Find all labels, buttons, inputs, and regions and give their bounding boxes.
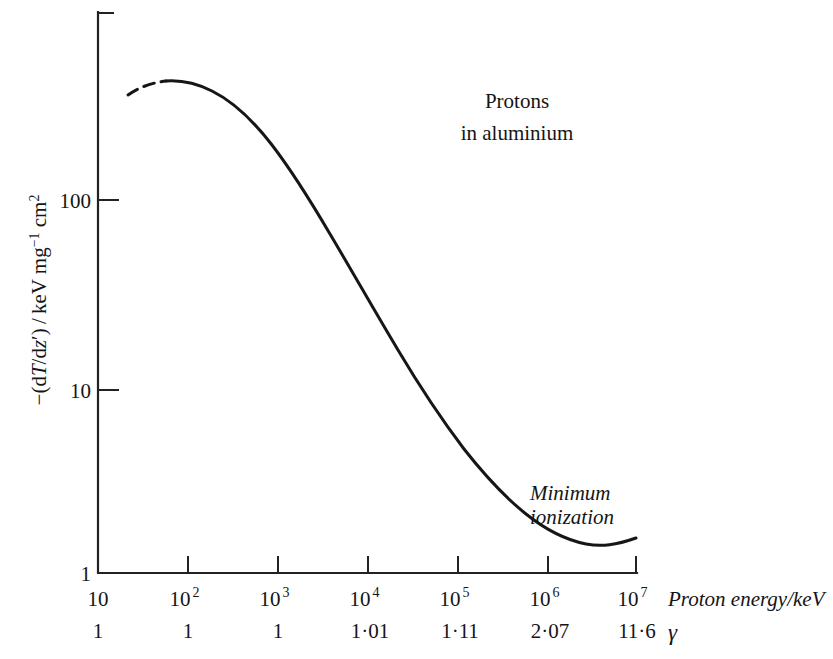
x-tick-label-1e3: 10 3	[260, 585, 290, 611]
x-tick-mantissa-1e1: 10	[88, 587, 109, 611]
x-tick-label-1e6: 10 6	[530, 585, 560, 611]
gamma-label-1e6: 2·07	[531, 619, 570, 643]
x-tick-label-1e7: 10 7	[618, 585, 648, 611]
x-tick-exponent-1e4: 4	[373, 585, 380, 600]
gamma-label-1e3: 1	[273, 619, 284, 643]
x-tick-exponent-1e3: 3	[283, 585, 290, 600]
gamma-label-1e4: 1·01	[351, 619, 390, 643]
y-axis-title: −(dT/dz′) / keV mg−1 cm2	[27, 195, 51, 406]
x-tick-exponent-1e5: 5	[463, 585, 470, 600]
y-axis-ticks	[98, 200, 119, 390]
x-axis-title: Proton energy/keV	[667, 587, 827, 611]
figure-proton-stopping-power: 100 10 1 10 10 2 10 3 10 4 10 5	[0, 0, 833, 659]
y-tick-label-10: 10	[70, 379, 91, 403]
x-axis-ticks	[98, 556, 636, 573]
annotation-min-ion-line2: ionization	[530, 505, 614, 529]
x-tick-exponent-1e2: 2	[193, 585, 200, 600]
y-tick-label-1: 1	[81, 562, 92, 586]
curve-main	[166, 81, 636, 546]
x-tick-label-1e5: 10 5	[440, 585, 470, 611]
y-axis-title-group: −(dT/dz′) / keV mg−1 cm2	[27, 195, 51, 406]
x-tick-mantissa-1e6: 10	[530, 587, 551, 611]
x-tick-labels: 10 10 2 10 3 10 4 10 5 10 6	[88, 585, 648, 611]
gamma-label-1e1: 1	[93, 619, 104, 643]
gamma-label-1e7: 11·6	[618, 619, 656, 643]
curve-dashed-extrapolation	[128, 81, 166, 95]
x-tick-exponent-1e7: 7	[641, 585, 648, 600]
x-tick-label-1e2: 10 2	[170, 585, 200, 611]
x-tick-labels-gamma: 1 1 1 1·01 1·11 2·07 11·6	[93, 619, 656, 643]
gamma-label-1e5: 1·11	[441, 619, 479, 643]
data-curve-group	[128, 81, 636, 546]
x-axis-title-gamma: γ	[668, 620, 678, 645]
x-tick-mantissa-1e4: 10	[350, 587, 371, 611]
x-tick-label-1e1: 10	[88, 587, 109, 611]
x-tick-exponent-1e6: 6	[553, 585, 560, 600]
chart-canvas: 100 10 1 10 10 2 10 3 10 4 10 5	[0, 0, 833, 659]
gamma-label-1e2: 1	[183, 619, 194, 643]
x-tick-mantissa-1e5: 10	[440, 587, 461, 611]
x-tick-mantissa-1e7: 10	[618, 587, 639, 611]
y-tick-label-100: 100	[60, 189, 92, 213]
annotation-sample-line1: Protons	[485, 89, 549, 113]
annotation-min-ion-line1: Minimum	[529, 481, 611, 505]
x-tick-label-1e4: 10 4	[350, 585, 380, 611]
annotation-sample: Protons in aluminium	[461, 89, 574, 145]
y-tick-labels: 100 10 1	[60, 189, 92, 586]
annotation-sample-line2: in aluminium	[461, 121, 574, 145]
x-tick-mantissa-1e3: 10	[260, 587, 281, 611]
annotation-minimum-ionization: Minimum ionization	[529, 481, 614, 529]
x-tick-mantissa-1e2: 10	[170, 587, 191, 611]
